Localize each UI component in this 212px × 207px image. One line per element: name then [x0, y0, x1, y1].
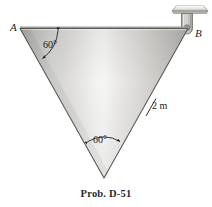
figure-container: A B 60° 60° 2 m Prob. D-51 — [0, 0, 212, 207]
figure-caption: Prob. D-51 — [0, 188, 212, 199]
angle-label-at-apex: 60° — [93, 135, 107, 145]
ceiling-plate-icon — [172, 6, 208, 14]
dimension-label-2m: 2 m — [152, 101, 167, 111]
vertex-label-b: B — [195, 28, 202, 39]
vertex-label-a: A — [10, 22, 17, 33]
figure-drawing — [0, 0, 212, 207]
angle-label-at-a: 60° — [43, 40, 57, 50]
